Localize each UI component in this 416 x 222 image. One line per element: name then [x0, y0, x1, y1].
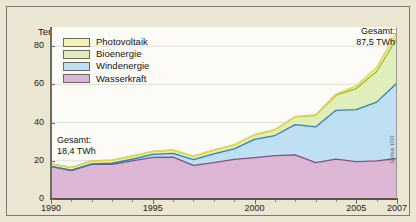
- x-tick-mark: [356, 200, 357, 204]
- x-tick-mark: [153, 200, 154, 204]
- legend-swatch-windenergie: [63, 62, 90, 71]
- legend-swatch-wasserkraft: [63, 74, 90, 83]
- x-tick-label: 1990: [31, 203, 71, 213]
- x-tick-mark: [255, 200, 256, 204]
- y-tick-mark: [51, 46, 55, 47]
- legend-label: Bioenergie: [96, 49, 141, 59]
- y-tick-label: 40: [22, 118, 44, 127]
- x-tick-minor: [295, 200, 296, 202]
- x-tick-mark: [51, 200, 52, 204]
- source-credit: Globus 1093: [390, 129, 395, 163]
- legend-item: Bioenergie: [63, 48, 149, 60]
- x-tick-minor: [336, 200, 337, 202]
- x-tick-minor: [173, 200, 174, 202]
- y-tick-mark: [51, 123, 55, 124]
- figure-root: Terawattstunden 806040200 19901995200020…: [0, 0, 416, 222]
- x-tick-minor: [214, 200, 215, 202]
- y-tick-label: 20: [22, 156, 44, 165]
- legend-label: Photovoltaik: [96, 37, 148, 47]
- x-axis-line: [50, 198, 398, 200]
- x-tick-minor: [377, 200, 378, 202]
- annotation-end-total: Gesamt: 87,5 TWh: [323, 26, 395, 47]
- annotation-start-total: Gesamt: 18,4 TWh: [57, 135, 96, 156]
- chart-frame: Terawattstunden 806040200 19901995200020…: [6, 6, 410, 216]
- x-tick-label: 2005: [336, 203, 376, 213]
- legend-item: Photovoltaik: [63, 36, 149, 48]
- right-axis-line: [396, 27, 397, 199]
- x-tick-label: 1995: [133, 203, 173, 213]
- legend-item: Wasserkraft: [63, 73, 149, 85]
- legend-label: Wasserkraft: [96, 74, 146, 84]
- legend-swatch-bioenergie: [63, 50, 90, 59]
- x-tick-minor: [132, 200, 133, 202]
- x-tick-label: 2007: [377, 203, 416, 213]
- legend-item: Windenergie: [63, 60, 149, 72]
- x-tick-minor: [275, 200, 276, 202]
- x-tick-minor: [316, 200, 317, 202]
- y-tick-label: 80: [22, 41, 44, 50]
- legend-label: Windenergie: [96, 61, 149, 71]
- x-tick-minor: [234, 200, 235, 202]
- x-tick-label: 2000: [235, 203, 275, 213]
- y-tick-mark: [51, 84, 55, 85]
- legend: PhotovoltaikBioenergieWindenergieWasserk…: [63, 36, 149, 85]
- y-tick-mark: [51, 161, 55, 162]
- x-tick-minor: [193, 200, 194, 202]
- y-axis-line: [50, 27, 52, 200]
- legend-swatch-photovoltaik: [63, 38, 90, 47]
- y-tick-label: 60: [22, 79, 44, 88]
- x-tick-minor: [71, 200, 72, 202]
- x-tick-mark: [397, 200, 398, 204]
- x-tick-minor: [112, 200, 113, 202]
- y-tick-label: 0: [22, 194, 44, 203]
- x-tick-minor: [92, 200, 93, 202]
